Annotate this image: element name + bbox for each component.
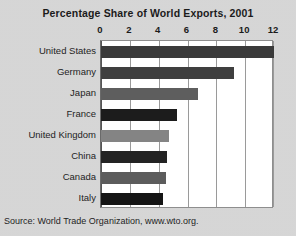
- bar-row: [101, 46, 272, 58]
- bar-row: [101, 67, 272, 79]
- x-tick-label: 2: [126, 24, 131, 35]
- bar-row: [101, 172, 272, 184]
- category-label: Canada: [0, 171, 96, 182]
- bar: [101, 67, 234, 79]
- bar-row: [101, 88, 272, 100]
- x-tick-label: 8: [213, 24, 218, 35]
- source-note: Source: World Trade Organization, www.wt…: [4, 216, 198, 226]
- category-label: Italy: [0, 192, 96, 203]
- bar: [101, 109, 177, 121]
- category-label: Japan: [0, 87, 96, 98]
- bar-series: [101, 41, 272, 207]
- x-tick-label: 10: [239, 24, 250, 35]
- bar: [101, 172, 166, 184]
- category-label: United Kingdom: [0, 129, 96, 140]
- category-label: France: [0, 108, 96, 119]
- category-axis-labels: United StatesGermanyJapanFranceUnited Ki…: [0, 40, 96, 208]
- bar: [101, 151, 167, 163]
- x-tick-label: 0: [97, 24, 102, 35]
- plot-area: [100, 40, 273, 208]
- x-tick-label: 4: [155, 24, 160, 35]
- bar-row: [101, 193, 272, 205]
- x-axis-tick-labels: 024681012: [100, 24, 273, 38]
- x-tick-label: 6: [184, 24, 189, 35]
- category-label: China: [0, 150, 96, 161]
- bar: [101, 46, 274, 58]
- bar: [101, 193, 163, 205]
- bar: [101, 130, 169, 142]
- gridline: [273, 41, 274, 207]
- bar: [101, 88, 198, 100]
- chart-figure: Percentage Share of World Exports, 2001 …: [0, 0, 296, 236]
- category-label: Germany: [0, 66, 96, 77]
- bar-row: [101, 109, 272, 121]
- bar-row: [101, 130, 272, 142]
- chart-title: Percentage Share of World Exports, 2001: [0, 7, 296, 19]
- bar-row: [101, 151, 272, 163]
- category-label: United States: [0, 45, 96, 56]
- x-tick-label: 12: [268, 24, 279, 35]
